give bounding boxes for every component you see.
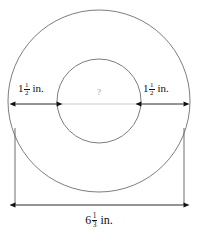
inner-circle	[57, 59, 141, 143]
mixed-number: 613in.	[85, 212, 113, 228]
whole-number: 6	[85, 213, 91, 227]
geometry-diagram: 112in. 112in. ? 613in.	[0, 0, 198, 241]
inner-diameter-unknown-label: ?	[0, 88, 198, 97]
unit-label: in.	[100, 213, 112, 227]
fraction-denominator: 3	[92, 220, 98, 229]
figure-canvas	[0, 0, 198, 241]
outer-diameter-label: 613in.	[0, 212, 198, 228]
fraction: 13	[92, 212, 98, 228]
fraction-numerator: 1	[92, 212, 98, 220]
outer-circle	[8, 10, 190, 192]
